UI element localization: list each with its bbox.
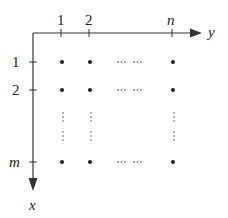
point-m-n (171, 160, 175, 164)
y-axis (33, 29, 202, 38)
column-tick-n: n (167, 12, 175, 28)
point-1-n (171, 60, 175, 64)
col-1-vdots (62, 112, 64, 141)
point-1-2 (88, 60, 92, 64)
x-axis-arrow-icon (29, 178, 38, 191)
matrix-grid-diagram: y x 1 2 n 1 2 m (0, 0, 228, 218)
row-tick-1: 1 (12, 54, 20, 70)
point-1-1 (60, 60, 64, 64)
point-2-n (171, 88, 175, 92)
point-2-2 (88, 88, 92, 92)
col-2-vdots (90, 112, 92, 141)
y-axis-label: y (206, 24, 215, 40)
grid-points (60, 60, 175, 164)
row-2-ellipsis (117, 89, 142, 91)
col-n-vdots (173, 112, 175, 141)
x-axis (29, 33, 38, 191)
point-2-1 (60, 88, 64, 92)
row-tick-m: m (9, 154, 20, 170)
y-axis-arrow-icon (190, 29, 202, 38)
row-1-ellipsis (117, 61, 142, 63)
point-m-2 (88, 160, 92, 164)
point-m-1 (60, 160, 64, 164)
column-tick-1: 1 (57, 12, 65, 28)
row-tick-2: 2 (12, 82, 20, 98)
vertical-ellipses (62, 112, 175, 141)
horizontal-ellipses (117, 61, 142, 163)
column-tick-2: 2 (85, 12, 93, 28)
row-m-ellipsis (117, 161, 142, 163)
x-axis-label: x (28, 197, 36, 213)
